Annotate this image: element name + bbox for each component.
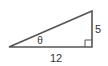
right-triangle — [9, 11, 92, 47]
side-label-adjacent: 12 — [50, 52, 62, 64]
angle-label-theta: θ — [37, 35, 43, 46]
right-angle-marker — [85, 40, 92, 47]
side-label-opposite: 5 — [95, 23, 101, 35]
triangle-diagram: θ 12 5 — [0, 0, 108, 66]
